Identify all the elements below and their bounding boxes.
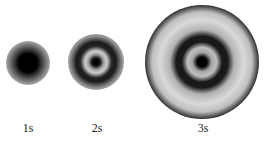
orbital-2s xyxy=(68,34,124,90)
label-3s: 3s xyxy=(198,121,209,136)
label-2s: 2s xyxy=(92,121,103,136)
orbital-diagram: 1s 2s 3s xyxy=(0,0,264,144)
orbital-1s xyxy=(6,41,50,85)
label-1s: 1s xyxy=(23,121,34,136)
orbital-3s xyxy=(145,5,259,119)
